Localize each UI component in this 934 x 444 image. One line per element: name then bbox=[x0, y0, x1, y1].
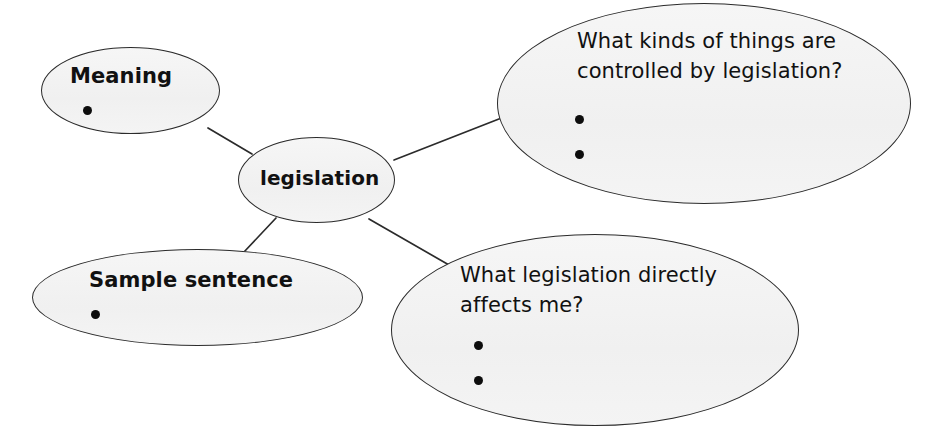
bullet-point bbox=[83, 106, 92, 115]
node-legislation-label: legislation bbox=[260, 167, 379, 189]
bullet-point bbox=[575, 115, 584, 124]
node-affects-me-content: What legislation directly affects me? bbox=[392, 235, 798, 425]
node-affects-me-label: What legislation directly affects me? bbox=[460, 260, 717, 320]
node-affects-me[interactable]: What legislation directly affects me? bbox=[391, 234, 799, 426]
node-sample-sentence-label: Sample sentence bbox=[89, 268, 293, 292]
node-legislation[interactable]: legislation bbox=[238, 137, 395, 223]
bullet-point bbox=[575, 150, 584, 159]
bullet-point bbox=[474, 341, 483, 350]
node-meaning[interactable]: Meaning bbox=[41, 47, 220, 134]
node-kinds-of-things-content: What kinds of things are controlled by l… bbox=[498, 4, 910, 203]
bullet-point bbox=[91, 310, 100, 319]
node-legislation-content: legislation bbox=[239, 138, 394, 222]
concept-map-canvas: Meaning legislation What kinds of things… bbox=[0, 0, 934, 444]
node-kinds-of-things-label: What kinds of things are controlled by l… bbox=[577, 26, 843, 86]
node-sample-sentence-content: Sample sentence bbox=[33, 250, 362, 345]
bullet-point bbox=[474, 376, 483, 385]
edge-legislation-sample bbox=[244, 218, 276, 252]
node-meaning-label: Meaning bbox=[70, 64, 172, 88]
edge-legislation-kinds bbox=[394, 117, 504, 160]
node-kinds-of-things[interactable]: What kinds of things are controlled by l… bbox=[497, 3, 911, 204]
node-sample-sentence[interactable]: Sample sentence bbox=[32, 249, 363, 346]
node-meaning-content: Meaning bbox=[42, 48, 219, 133]
